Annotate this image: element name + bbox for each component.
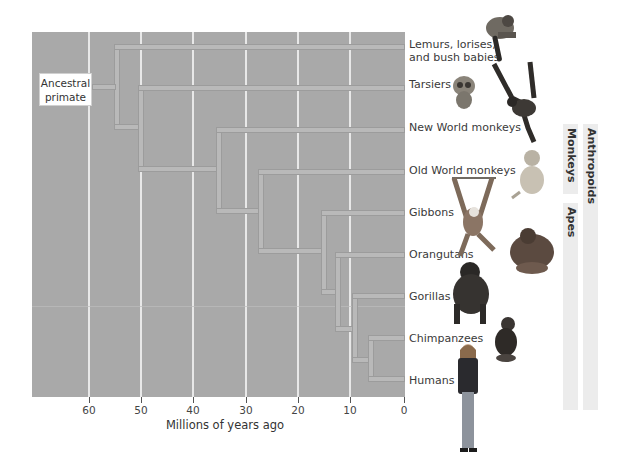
branch-root-stem — [92, 84, 116, 90]
chimpanzee-illustration — [490, 316, 520, 364]
tick-label-0: 0 — [389, 404, 419, 416]
gorilla-illustration — [448, 260, 494, 326]
gibbon-illustration — [448, 176, 504, 262]
tarsier-illustration — [448, 70, 482, 114]
human-illustration — [450, 342, 486, 456]
branch-orangutan-node — [335, 252, 341, 332]
group-bar-monkeys: Monkeys — [563, 124, 578, 194]
branch-chimp-human-node — [368, 335, 374, 381]
tick-label-60: 60 — [74, 404, 104, 416]
tick-mark — [141, 397, 142, 403]
tick-mark — [193, 397, 194, 403]
group-label-monkeys: Monkeys — [564, 128, 577, 183]
spider-monkey-illustration — [490, 58, 546, 146]
branch-tarsiers — [138, 85, 405, 91]
branch-humans — [368, 376, 405, 382]
tick-label-30: 30 — [231, 404, 261, 416]
tick-mark — [350, 397, 351, 403]
branch-catarrhine-stem — [216, 208, 262, 214]
ancestral-primate-label: Ancestral primate — [39, 73, 92, 106]
branch-gorilla-node — [352, 293, 358, 363]
branch-orangutans — [335, 252, 405, 258]
branch-gibbons — [321, 210, 405, 216]
group-label-anthropoids: Anthropoids — [584, 128, 597, 204]
tick-mark — [298, 397, 299, 403]
branch-owm-node — [258, 169, 264, 253]
branch-gibbon-node — [321, 210, 327, 294]
taxon-humans: Humans — [409, 374, 454, 387]
taxon-tarsiers: Tarsiers — [409, 78, 451, 91]
branch-chimpanzees — [368, 335, 405, 341]
group-bar-apes: Apes — [563, 203, 578, 410]
branch-new-world-monkeys — [216, 127, 405, 133]
branch-lemurs — [114, 44, 405, 50]
tick-label-10: 10 — [335, 404, 365, 416]
branch-nwm-node — [216, 127, 222, 213]
tick-mark — [404, 397, 405, 403]
old-world-monkey-illustration — [508, 148, 552, 202]
tick-label-50: 50 — [126, 404, 156, 416]
taxon-gorillas: Gorillas — [409, 290, 450, 303]
x-axis-label: Millions of years ago — [150, 418, 300, 432]
branch-old-world-monkeys — [258, 169, 405, 175]
faint-horizontal-line — [32, 306, 405, 307]
branch-ape-stem — [258, 248, 324, 254]
orangutan-illustration — [504, 224, 558, 276]
group-bar-anthropoids: Anthropoids — [583, 124, 598, 410]
branch-gorillas — [352, 293, 405, 299]
ancestral-primate-text: Ancestral primate — [41, 77, 90, 103]
tick-label-20: 20 — [283, 404, 313, 416]
branch-tarsier-node — [138, 85, 144, 171]
branch-anthropoid-stem — [138, 166, 218, 172]
tick-mark — [246, 397, 247, 403]
group-label-apes: Apes — [564, 207, 577, 237]
tick-label-40: 40 — [178, 404, 208, 416]
tick-mark — [89, 397, 90, 403]
lemur-illustration — [478, 12, 518, 64]
